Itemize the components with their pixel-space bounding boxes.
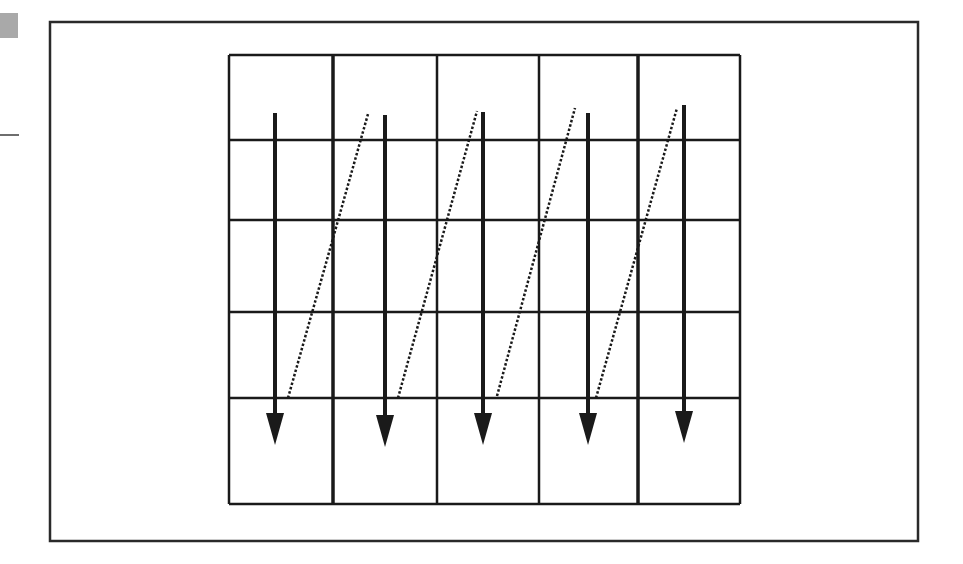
- arrowhead-icon: [266, 413, 284, 445]
- return-path-0: [288, 114, 368, 398]
- arrowhead-icon: [675, 411, 693, 443]
- down-arrow-4: [675, 105, 693, 443]
- arrowhead-icon: [376, 415, 394, 447]
- arrowhead-icon: [579, 413, 597, 445]
- arrowhead-icon: [474, 413, 492, 445]
- down-arrow-0: [266, 113, 284, 445]
- traversal-diagram: [0, 0, 963, 564]
- down-arrow-3: [579, 113, 597, 445]
- down-arrow-2: [474, 112, 492, 445]
- return-path-2: [497, 108, 575, 396]
